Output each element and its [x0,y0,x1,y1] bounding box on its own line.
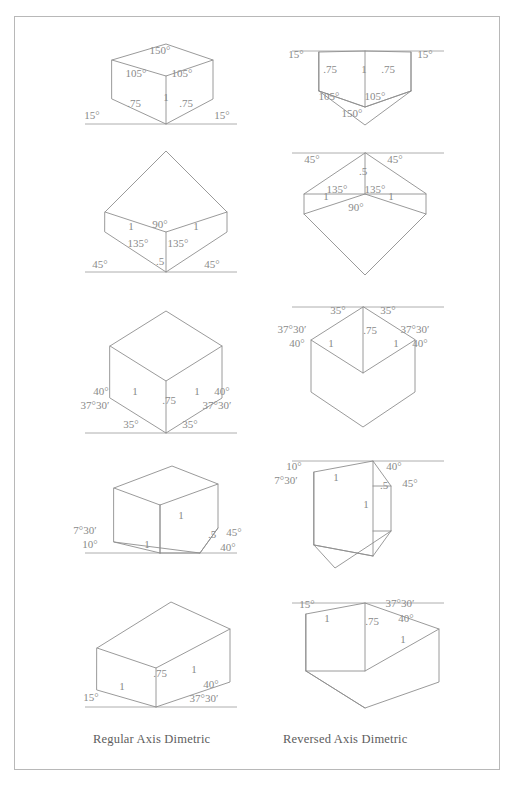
dimension-label: 10° [286,460,301,472]
dimension-label: 40° [398,612,413,624]
dimension-label: 135° [128,237,149,249]
dimension-label: 45° [304,153,319,165]
dimension-label: 150° [150,44,171,56]
dimension-label: 15° [288,48,303,60]
dimension-label: 7°30′ [73,524,96,536]
figure-reversed-45-45 [292,153,444,275]
figure-reversed-15-15 [292,51,444,125]
dimension-label: 1 [333,471,339,483]
dimension-label: 105° [365,90,386,102]
dimension-label: 15° [83,691,98,703]
dimension-label: .5 [156,255,165,267]
dimension-label: 135° [365,183,386,195]
page-canvas: 150°105°105°1.75.7515°15°15°15°.751.7510… [0,0,517,793]
dimension-label: 1 [144,538,150,550]
dimension-label: 1 [128,220,134,232]
dimension-label: 10° [82,538,97,550]
dimension-label: 35° [330,304,345,316]
dimension-label: 135° [327,183,348,195]
dimension-label: 37°30′ [190,692,219,704]
dimension-label: 1 [393,337,399,349]
dimension-label: 37°30′ [203,399,232,411]
dimension-label: 35° [182,418,197,430]
dimension-label: .5 [380,479,389,491]
dimension-label: 45° [204,258,219,270]
dimension-label: 90° [152,218,167,230]
dimension-label: 105° [319,90,340,102]
dimension-label: .75 [365,615,379,627]
dimension-label: 1 [361,63,367,75]
dimension-label: 40° [214,385,229,397]
dimension-label: 1 [324,612,330,624]
dimension-label: 15° [84,109,99,121]
caption-reversed-axis: Reversed Axis Dimetric [283,732,408,747]
dimension-label: 37°30′ [386,597,415,609]
dimension-label: 15° [417,48,432,60]
caption-regular-axis: Regular Axis Dimetric [93,732,210,747]
dimension-label: 1 [193,220,199,232]
dimension-label: 45° [92,258,107,270]
dimension-label: .75 [323,63,337,75]
dimension-label: 40° [93,385,108,397]
dimension-label: 15° [214,109,229,121]
dimension-label: 1 [194,385,200,397]
dimension-label: 37°30′ [401,323,430,335]
dimension-label: 1 [119,680,125,692]
dimension-label: 40° [203,678,218,690]
dimension-label: 40° [289,337,304,349]
dimension-label: 35° [123,418,138,430]
dimension-label: 1 [163,91,169,103]
dimension-label: .75 [162,394,176,406]
dimension-label: 1 [400,633,406,645]
dimension-label: 15° [299,598,314,610]
figure-regular-35-35 [85,311,237,433]
dimension-label: .5 [359,165,368,177]
dimension-label: 105° [172,67,193,79]
figure-reversed-10-40 [292,461,444,568]
dimension-label: 45° [402,477,417,489]
dimension-label: 40° [220,541,235,553]
figure-regular-45-45 [85,151,237,272]
dimension-label: 37°30′ [278,323,307,335]
dimension-label: 1 [323,190,329,202]
dimension-label: 1 [388,190,394,202]
dimension-label: 1 [328,337,334,349]
dimension-label: .5 [208,528,217,540]
dimension-label: 45° [226,526,241,538]
dimension-label: 40° [412,337,427,349]
dimension-label: 150° [342,107,363,119]
dimension-label: .75 [381,63,395,75]
dimension-label: 1 [178,509,184,521]
dimension-label: 35° [380,304,395,316]
dimension-label: .75 [153,667,167,679]
dimetric-projection-plate: 150°105°105°1.75.7515°15°15°15°.751.7510… [0,0,517,793]
dimension-label: 7°30′ [274,474,297,486]
dimension-label: 90° [348,201,363,213]
dimension-label: 105° [126,67,147,79]
dimension-label: 135° [168,237,189,249]
dimension-label: 1 [191,663,197,675]
dimension-label: 37°30′ [81,399,110,411]
dimension-labels: 150°105°105°1.75.7515°15°15°15°.751.7510… [73,44,432,704]
dimension-label: 40° [386,460,401,472]
dimension-label: 1 [363,498,369,510]
dimension-label: 1 [132,385,138,397]
dimension-label: .75 [363,324,377,336]
dimension-label: .75 [179,97,193,109]
dimension-label: .75 [127,97,141,109]
dimension-label: 45° [387,153,402,165]
